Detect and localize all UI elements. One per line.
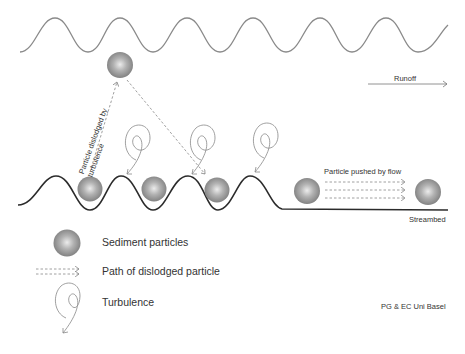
- runoff-label: Runoff: [394, 74, 416, 83]
- sediment-particle: [415, 179, 441, 205]
- sediment-particle: [142, 177, 167, 202]
- turbulence-spiral-1: [125, 125, 150, 174]
- legend-label-path: Path of dislodged particle: [102, 265, 220, 277]
- sediment-particle-icon: [54, 230, 81, 257]
- water-surface-wave: [20, 18, 448, 52]
- turbulence-spiral-icon: [55, 283, 80, 333]
- sediment-transport-diagram: [0, 0, 465, 354]
- sediment-particle: [205, 178, 230, 203]
- turbulence-spiral-3: [253, 123, 278, 172]
- dashed-arrow-icon: [36, 269, 79, 274]
- streambed-label: Streambed: [409, 215, 446, 224]
- flow-arrows: [325, 182, 405, 198]
- pushed-by-flow-label: Particle pushed by flow: [324, 167, 401, 176]
- legend-label-turbulence: Turbulence: [102, 296, 154, 308]
- legend-label-sediment: Sediment particles: [102, 236, 188, 248]
- sediment-particle: [294, 178, 320, 204]
- sediment-particle: [78, 177, 103, 202]
- credit-label: PG & EC Uni Basel: [381, 302, 446, 311]
- turbulence-spiral-2: [190, 125, 215, 174]
- sediment-particle-floating: [107, 52, 133, 78]
